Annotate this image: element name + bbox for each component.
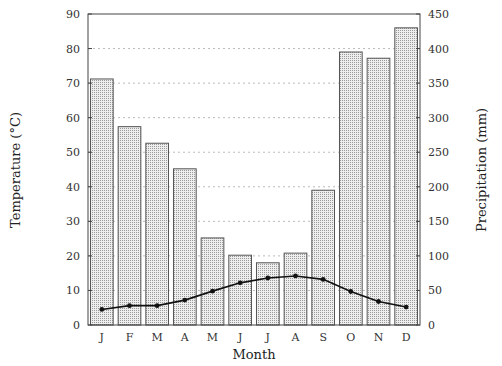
x-tick-label: F	[126, 331, 134, 344]
temperature-marker	[321, 277, 326, 282]
y2-tick-label: 350	[428, 77, 449, 90]
y-tick-label: 30	[66, 215, 80, 228]
y-tick-label: 10	[66, 284, 80, 297]
y-tick-label: 90	[66, 8, 80, 21]
precipitation-bar	[90, 79, 113, 325]
x-axis-label: Month	[232, 347, 276, 362]
temperature-marker	[210, 289, 215, 294]
precipitation-bar	[395, 28, 418, 325]
x-tick-label: J	[265, 331, 270, 344]
x-tick-label: D	[402, 331, 411, 344]
precipitation-bar	[339, 52, 362, 325]
right-axis-ticks: 050100150200250300350400450	[416, 8, 449, 332]
temperature-marker	[127, 303, 132, 308]
x-tick-label: S	[319, 331, 327, 344]
precipitation-bar	[118, 127, 141, 325]
x-tick-label: A	[291, 331, 301, 344]
y-axis-label: Temperature (°C)	[8, 112, 23, 228]
temperature-marker	[348, 289, 353, 294]
y-tick-label: 70	[66, 77, 80, 90]
x-tick-label: A	[180, 331, 190, 344]
precipitation-bar	[284, 253, 307, 325]
y-tick-label: 40	[66, 181, 80, 194]
y2-tick-label: 0	[428, 319, 435, 332]
y-tick-label: 50	[66, 146, 80, 159]
x-tick-label: J	[99, 331, 104, 344]
y-tick-label: 0	[73, 319, 80, 332]
y-tick-label: 80	[66, 43, 80, 56]
precipitation-bar	[256, 263, 279, 325]
precipitation-bar	[312, 190, 335, 325]
precipitation-bar	[146, 143, 169, 325]
temperature-marker	[238, 280, 243, 285]
x-tick-label: O	[346, 331, 355, 344]
y-tick-label: 20	[66, 250, 80, 263]
temperature-marker	[99, 307, 104, 312]
climate-chart: 0102030405060708090 05010015020025030035…	[0, 0, 502, 366]
x-tick-label: M	[152, 331, 163, 344]
temperature-marker	[404, 305, 409, 310]
temperature-marker	[182, 298, 187, 303]
x-axis-ticks: JFMAMJJASOND	[99, 331, 411, 344]
y2-tick-label: 150	[428, 215, 449, 228]
precipitation-bar	[367, 58, 390, 325]
x-tick-label: J	[237, 331, 242, 344]
temperature-marker	[155, 303, 160, 308]
temperature-marker	[265, 276, 270, 281]
y2-tick-label: 250	[428, 146, 449, 159]
precipitation-bar	[201, 238, 224, 325]
precipitation-bar	[229, 255, 252, 325]
y2-axis-label: Precipitation (mm)	[474, 108, 489, 232]
y-tick-label: 60	[66, 112, 80, 125]
y2-tick-label: 450	[428, 8, 449, 21]
y2-tick-label: 400	[428, 43, 449, 56]
y2-tick-label: 100	[428, 250, 449, 263]
x-tick-label: M	[207, 331, 218, 344]
x-tick-label: N	[374, 331, 384, 344]
y2-tick-label: 200	[428, 181, 449, 194]
y2-tick-label: 300	[428, 112, 449, 125]
temperature-marker	[376, 299, 381, 304]
temperature-marker	[293, 274, 298, 279]
y2-tick-label: 50	[428, 284, 442, 297]
